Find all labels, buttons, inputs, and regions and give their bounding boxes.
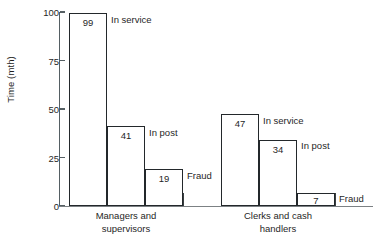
bar-value: 99: [70, 17, 106, 28]
bar-value: 47: [222, 118, 258, 129]
bar-managers-in-post: 41: [107, 126, 145, 206]
bar-managers-fraud: 19: [145, 169, 183, 206]
bar-clerks-fraud: 7: [297, 193, 335, 207]
bar-chart: Time (mth) 100 75 50 25 0 99 In service: [0, 0, 376, 245]
bar-value: 7: [298, 195, 334, 206]
y-tick-label-50: 50: [25, 104, 59, 115]
y-tick-label-25: 25: [25, 152, 59, 163]
y-tick-mark-50: [60, 108, 65, 109]
annotation-in-post-clerks: In post: [301, 140, 330, 151]
x-group-label-line2: supervisors: [59, 223, 193, 236]
x-tick-mark: [183, 193, 184, 206]
bar-value: 41: [108, 130, 144, 141]
x-group-label-managers: Managers and supervisors: [59, 210, 193, 235]
bar-clerks-in-service: 47: [221, 114, 259, 206]
annotation-fraud-clerks: Fraud: [339, 193, 364, 204]
x-group-label-clerks: Clerks and cash handlers: [211, 210, 345, 235]
y-axis-title: Time (mth): [5, 40, 16, 120]
annotation-in-service-managers: In service: [111, 14, 152, 25]
x-group-label-line1: Clerks and cash: [211, 210, 345, 223]
x-tick-mark: [335, 193, 336, 206]
y-tick-label-100: 100: [25, 7, 59, 18]
y-tick-mark-100: [60, 11, 65, 12]
y-tick-label-75: 75: [25, 55, 59, 66]
y-tick-mark-75: [60, 60, 65, 61]
bar-value: 19: [146, 173, 182, 184]
annotation-in-post-managers: In post: [149, 127, 178, 138]
bar-value: 34: [260, 144, 296, 155]
x-group-label-line1: Managers and: [59, 210, 193, 223]
bar-clerks-in-post: 34: [259, 140, 297, 207]
y-tick-mark-25: [60, 157, 65, 158]
annotation-fraud-managers: Fraud: [187, 170, 212, 181]
bar-managers-in-service: 99: [69, 13, 107, 206]
x-group-label-line2: handlers: [211, 223, 345, 236]
y-tick-label-0: 0: [25, 201, 59, 212]
annotation-in-service-clerks: In service: [263, 115, 304, 126]
